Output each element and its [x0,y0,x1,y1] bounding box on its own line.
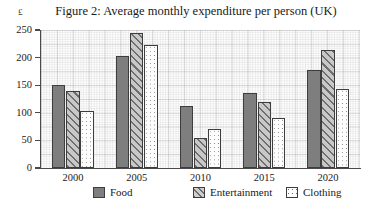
y-axis-tick-label: 50 [2,135,32,145]
bar-food-2015 [243,93,257,168]
y-axis-tick [35,112,40,113]
bar-clothing-2000 [80,111,94,168]
chart-legend: FoodEntertainmentClothing [41,185,360,201]
y-axis-tick [35,167,40,168]
bar-entertainment-2010 [194,138,208,168]
bar-entertainment-2015 [258,102,272,168]
legend-label: Clothing [303,186,342,199]
legend-swatch-food-icon [93,187,105,198]
bars-layer [41,30,360,168]
y-axis-tick-label: 250 [2,25,32,35]
y-axis-tick [35,29,40,30]
bar-food-2010 [180,106,194,168]
bar-entertainment-2000 [66,91,80,168]
bar-clothing-2005 [144,45,158,168]
y-axis-tick-label: 100 [2,108,32,118]
y-axis-tick [35,85,40,86]
bar-clothing-2010 [208,129,222,168]
y-axis-tick-label: 200 [2,53,32,63]
legend-label: Entertainment [210,186,272,199]
y-axis-unit-label: £ [18,7,23,18]
title-row: £ Figure 2: Average monthly expenditure … [0,3,374,20]
x-axis-tick-label: 2000 [41,171,105,184]
bar-entertainment-2020 [321,50,335,168]
bar-food-2020 [307,70,321,168]
legend-entry-clothing: Clothing [286,185,342,199]
bar-food-2000 [52,85,66,168]
y-axis-tick [35,57,40,58]
plot-area [41,30,360,168]
figure-container: £ Figure 2: Average monthly expenditure … [0,0,374,222]
bar-clothing-2015 [272,118,286,168]
legend-swatch-clothing-icon [286,187,298,198]
chart-title: Figure 2: Average monthly expenditure pe… [31,3,361,19]
y-axis-tick-label: 150 [2,80,32,90]
bar-clothing-2020 [336,89,350,168]
y-axis-tick [35,140,40,141]
bar-food-2005 [116,56,130,168]
x-axis-tick-label: 2010 [169,171,233,184]
legend-entry-entertainment: Entertainment [193,185,272,199]
legend-label: Food [110,186,133,199]
x-axis-tick-label: 2020 [296,171,360,184]
y-axis-line [40,30,41,169]
x-axis-line [40,168,361,169]
legend-entry-food: Food [93,185,133,199]
y-axis-tick-label: 0 [2,163,32,173]
legend-swatch-entertainment-icon [193,187,205,198]
x-axis-tick-label: 2005 [105,171,169,184]
bar-entertainment-2005 [130,33,144,168]
x-axis-tick-label: 2015 [232,171,296,184]
